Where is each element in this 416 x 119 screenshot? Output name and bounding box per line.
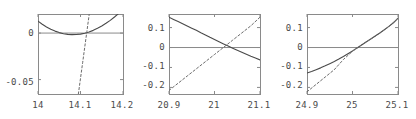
plot-2-ytick-label: -0.2 bbox=[142, 81, 165, 90]
plot-3-ytick-label: -0.2 bbox=[280, 81, 303, 90]
plot-1-frame bbox=[39, 15, 124, 95]
plot-2-dashed-increasing-line bbox=[169, 17, 260, 90]
plot-1 bbox=[38, 0, 124, 94]
plot-2 bbox=[169, 14, 261, 95]
plot-1-xtick-label: 14.1 bbox=[69, 101, 92, 110]
plot-2-xtick-label: 21.1 bbox=[248, 101, 271, 110]
plot-3-ytick-label: 0.1 bbox=[286, 24, 303, 33]
plot-2-xtick-label: 20.9 bbox=[158, 101, 181, 110]
plot-1-xtick-label: 14.2 bbox=[111, 101, 134, 110]
plot-1-ytick-label: -0.05 bbox=[5, 78, 34, 87]
plot-1-dashed-line bbox=[78, 0, 91, 94]
plot-3-ytick-label: -0.1 bbox=[280, 62, 303, 71]
plot-1-ytick-label: 0 bbox=[28, 29, 34, 38]
plot-3-solid-increasing-curve bbox=[307, 18, 398, 73]
plot-2-ytick-label: 0.1 bbox=[148, 24, 165, 33]
plot-2-solid-decreasing-curve bbox=[169, 17, 260, 60]
plot-1-xtick-label: 14 bbox=[32, 101, 43, 110]
plot-2-xtick-label: 21 bbox=[208, 101, 219, 110]
plot-2-ytick-label: 0 bbox=[159, 43, 165, 52]
plot-3-ytick-label: 0 bbox=[297, 43, 303, 52]
plot-3-dashed-tangent-line bbox=[307, 18, 398, 92]
plot-3-xtick-label: 24.9 bbox=[296, 101, 319, 110]
plot-3-xtick-label: 25.1 bbox=[386, 101, 409, 110]
plot-3 bbox=[307, 14, 399, 95]
plot-2-ytick-label: -0.1 bbox=[142, 62, 165, 71]
plot-2-frame bbox=[170, 15, 261, 95]
plot-3-xtick-label: 25 bbox=[346, 101, 357, 110]
plot-1-solid-parabola bbox=[38, 10, 123, 35]
plot-3-frame bbox=[308, 15, 399, 95]
three-panel-plot-figure: 1414.114.20-0.0520.92121.10.10-0.1-0.224… bbox=[0, 0, 416, 119]
